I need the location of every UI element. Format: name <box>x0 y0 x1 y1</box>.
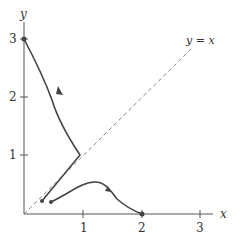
trajectory-1-end <box>22 37 27 42</box>
trajectory-2-start <box>49 200 53 204</box>
y-axis-label: y <box>19 7 27 21</box>
trajectory-2 <box>51 182 142 214</box>
y-tick-2: 2 <box>9 90 17 104</box>
identity-line-label: y = x <box>185 34 215 47</box>
y-tick-3: 3 <box>9 32 17 46</box>
x-tick-3: 3 <box>196 221 204 235</box>
x-tick-1: 1 <box>80 221 88 235</box>
phase-plot: 1 2 3 1 2 3 x y y = x <box>0 0 242 242</box>
y-tick-1: 1 <box>9 148 17 162</box>
x-axis-label: x <box>220 207 227 221</box>
x-tick-2: 2 <box>138 221 146 235</box>
trajectory-1-arrow <box>56 86 63 95</box>
trajectory-1 <box>24 39 80 201</box>
trajectory-1-start <box>40 199 44 203</box>
trajectory-2-end <box>140 212 145 217</box>
